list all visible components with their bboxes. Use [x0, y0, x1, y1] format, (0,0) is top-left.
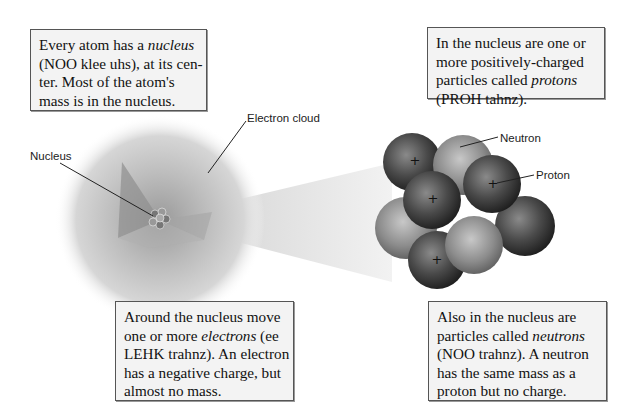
caption-line: particles called neutrons — [437, 327, 606, 346]
caption-line: (NOO klee uhs), at its cen- — [39, 55, 206, 74]
caption-line: In the nucleus are one or — [436, 34, 604, 53]
caption-line: (PROH tahnz). — [436, 90, 604, 109]
caption-line: mass is in the nucleus. — [39, 92, 206, 111]
caption-line: Around the nucleus move — [124, 308, 293, 327]
caption-line: proton but no charge. — [437, 382, 606, 401]
large-nucleus: + + + + — [375, 133, 555, 289]
proton-label: Proton — [536, 169, 570, 181]
nucleus-caption: Every atom has a nucleus(NOO klee uhs), … — [30, 29, 207, 111]
electron-cloud-label: Electron cloud — [247, 112, 320, 124]
caption-line: LEHK trahnz). An electron — [124, 345, 293, 364]
caption-line: almost no mass. — [124, 382, 293, 401]
proton-plus-3: + — [488, 176, 499, 191]
neutron-label: Neutron — [500, 132, 541, 144]
electrons-caption: Around the nucleus moveone or more elect… — [115, 301, 294, 401]
proton-plus-1: + — [410, 153, 421, 168]
caption-line: (NOO trahnz). A neutron — [437, 345, 606, 364]
caption-line: has a negative charge, but — [124, 364, 293, 383]
nucleus-label: Nucleus — [30, 150, 72, 162]
protons-caption: In the nucleus are one ormore positively… — [427, 27, 605, 99]
proton-plus-4: + — [432, 252, 443, 267]
proton-plus-2: + — [428, 191, 439, 206]
caption-line: particles called protons — [436, 71, 604, 90]
caption-line: Also in the nucleus are — [437, 308, 606, 327]
neutrons-caption: Also in the nucleus areparticles called … — [428, 301, 607, 401]
caption-line: one or more electrons (ee — [124, 327, 293, 346]
caption-line: Every atom has a nucleus — [39, 36, 206, 55]
caption-line: has the same mass as a — [437, 364, 606, 383]
caption-line: ter. Most of the atom's — [39, 73, 206, 92]
caption-line: more positively-charged — [436, 53, 604, 72]
